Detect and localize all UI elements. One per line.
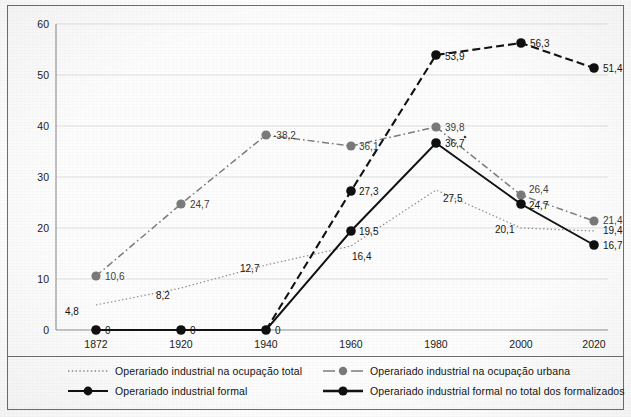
label-urbana-1920: 24,7 bbox=[190, 199, 210, 210]
label-formal-1940: 0 bbox=[275, 325, 281, 336]
scan-speck bbox=[464, 136, 467, 139]
label-formalizados-2020: 51,4 bbox=[603, 63, 623, 74]
legend-item-formal[interactable]: Operariado industrial formal bbox=[66, 385, 247, 397]
point-urbana-1920 bbox=[176, 199, 185, 208]
label-urbana-2000: 26,4 bbox=[529, 184, 549, 195]
point-formal-2020 bbox=[589, 240, 599, 250]
legend: Operariado industrial na ocupação total … bbox=[8, 356, 623, 409]
label-total-2000: 20,1 bbox=[495, 224, 515, 235]
label-formalizados-2000: 56,3 bbox=[530, 38, 550, 49]
x-tick-1872: 1872 bbox=[84, 338, 108, 350]
chart-frame: 60 50 40 30 20 10 0 1872 1920 1940 1960 … bbox=[7, 5, 624, 410]
x-tick-1940: 1940 bbox=[254, 338, 278, 350]
label-formal-2000: 24,7 bbox=[529, 200, 549, 211]
label-urbana-1980: 39,8 bbox=[445, 122, 465, 133]
legend-label-ocupacao-total: Operariado industrial na ocupação total bbox=[115, 365, 302, 377]
legend-item-formal-total-formalizados[interactable]: Operariado industrial formal no total do… bbox=[321, 385, 625, 397]
label-formal-1960: 19,5 bbox=[359, 226, 379, 237]
series-line-formal bbox=[96, 143, 594, 330]
point-formalizados-2000 bbox=[516, 38, 526, 48]
x-tick-1980: 1980 bbox=[424, 338, 448, 350]
point-urbana-1940 bbox=[261, 130, 270, 139]
label-total-1980: 27,5 bbox=[443, 193, 463, 204]
y-tick-labels: 60 50 40 30 20 10 0 bbox=[37, 18, 49, 336]
y-tick-0: 0 bbox=[43, 324, 49, 336]
y-tick-40: 40 bbox=[37, 120, 49, 132]
y-tick-10: 10 bbox=[37, 273, 49, 285]
legend-swatch-dashdot-grey-marker bbox=[321, 365, 365, 377]
point-urbana-2020 bbox=[589, 216, 598, 225]
label-formal-1872: 0 bbox=[105, 325, 111, 336]
data-labels-formal-total-formalizados: 27,3 53,9 56,3 51,4 bbox=[359, 38, 623, 197]
legend-item-ocupacao-urbana[interactable]: Operariado industrial na ocupação urbana bbox=[321, 365, 570, 377]
point-formalizados-1960 bbox=[346, 186, 356, 196]
x-tick-1960: 1960 bbox=[339, 338, 363, 350]
plot-area: 60 50 40 30 20 10 0 1872 1920 1940 1960 … bbox=[8, 6, 625, 354]
legend-swatch-dotted-line bbox=[66, 365, 110, 377]
point-formal-1940 bbox=[261, 325, 271, 335]
label-urbana-1872: 10,6 bbox=[105, 271, 125, 282]
label-formal-1920: 0 bbox=[190, 325, 196, 336]
series-markers-formal-total-formalizados bbox=[346, 38, 599, 196]
legend-swatch-solid-black-marker bbox=[66, 385, 110, 397]
data-labels-ocupacao-total: 4,8 8,2 12,7 16,4 27,5 20,1 19,4 bbox=[65, 193, 623, 317]
legend-label-formal: Operariado industrial formal bbox=[115, 385, 247, 397]
line-chart-svg: 60 50 40 30 20 10 0 1872 1920 1940 1960 … bbox=[8, 6, 625, 354]
label-urbana-1960: 36,1 bbox=[359, 141, 379, 152]
x-tick-1920: 1920 bbox=[169, 338, 193, 350]
legend-swatch-thick-black-marker bbox=[321, 385, 365, 397]
y-tick-50: 50 bbox=[37, 69, 49, 81]
label-total-1872: 4,8 bbox=[65, 306, 79, 317]
point-formal-1872 bbox=[91, 325, 101, 335]
gridlines bbox=[56, 24, 608, 279]
label-formalizados-1980: 53,9 bbox=[445, 51, 465, 62]
point-formal-2000 bbox=[516, 199, 526, 209]
label-total-1960: 16,4 bbox=[352, 251, 372, 262]
point-urbana-2000 bbox=[516, 190, 525, 199]
legend-label-formal-total-formalizados: Operariado industrial formal no total do… bbox=[370, 385, 625, 397]
legend-label-ocupacao-urbana: Operariado industrial na ocupação urbana bbox=[370, 365, 570, 377]
point-formalizados-2020 bbox=[589, 63, 599, 73]
y-tick-30: 30 bbox=[37, 171, 49, 183]
x-tick-2000: 2000 bbox=[509, 338, 533, 350]
point-formal-1980 bbox=[431, 138, 441, 148]
point-urbana-1980 bbox=[431, 122, 440, 131]
label-formalizados-1960: 27,3 bbox=[359, 186, 379, 197]
legend-item-ocupacao-total[interactable]: Operariado industrial na ocupação total bbox=[66, 365, 302, 377]
label-total-2020: 19,4 bbox=[603, 225, 623, 236]
label-formal-2020: 16,7 bbox=[603, 240, 623, 251]
point-urbana-1960 bbox=[346, 141, 355, 150]
label-urbana-1940: -38,2 bbox=[273, 130, 296, 141]
point-formal-1960 bbox=[346, 226, 356, 236]
label-total-1940: 12,7 bbox=[240, 263, 260, 274]
x-tick-2020: 2020 bbox=[582, 338, 606, 350]
y-tick-60: 60 bbox=[37, 18, 49, 30]
x-tick-labels: 1872 1920 1940 1960 1980 2000 2020 bbox=[84, 338, 606, 350]
point-urbana-1872 bbox=[91, 271, 100, 280]
label-formal-1980: 36,7 bbox=[445, 138, 465, 149]
y-tick-20: 20 bbox=[37, 222, 49, 234]
label-total-1920: 8,2 bbox=[156, 290, 170, 301]
point-formalizados-1980 bbox=[431, 50, 441, 60]
point-formal-1920 bbox=[176, 325, 186, 335]
